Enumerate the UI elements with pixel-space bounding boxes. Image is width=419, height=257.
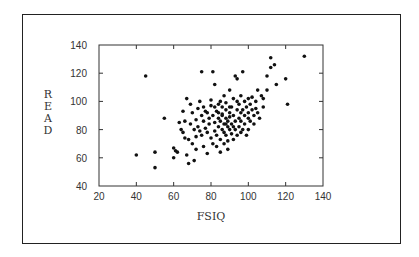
data-point: [254, 100, 258, 104]
data-point: [269, 56, 273, 60]
data-point: [228, 115, 232, 119]
data-point: [261, 97, 265, 101]
data-point: [235, 77, 239, 81]
data-point: [153, 166, 157, 170]
data-point: [230, 132, 234, 136]
data-point: [196, 125, 200, 129]
data-point: [181, 109, 185, 113]
data-point: [228, 88, 232, 92]
data-point: [228, 128, 232, 132]
y-tick-label: 60: [76, 153, 88, 164]
data-point: [243, 122, 247, 126]
data-point: [213, 129, 217, 133]
data-point: [275, 83, 279, 87]
data-point: [228, 111, 232, 115]
data-point: [192, 128, 196, 132]
x-tick-label: 80: [205, 191, 217, 202]
data-point: [183, 119, 187, 123]
data-point: [194, 135, 198, 139]
data-point: [224, 122, 228, 126]
data-point: [233, 119, 237, 123]
x-axis-title: FSIQ: [197, 210, 226, 223]
data-point: [303, 54, 307, 58]
data-point: [211, 142, 215, 146]
data-point: [237, 125, 241, 129]
data-point: [144, 74, 148, 78]
data-point: [239, 131, 243, 135]
data-point: [247, 97, 251, 101]
data-point: [191, 142, 195, 146]
data-point: [198, 129, 202, 133]
data-point: [273, 63, 277, 67]
data-point: [207, 117, 211, 121]
data-point: [200, 114, 204, 118]
data-point: [213, 105, 217, 109]
data-point: [200, 133, 204, 137]
x-tick-label: 100: [240, 191, 257, 202]
data-point: [187, 138, 191, 142]
data-point: [183, 136, 187, 140]
y-tick-label: 140: [70, 40, 87, 51]
data-point: [235, 100, 239, 104]
data-point: [202, 105, 206, 109]
data-point: [219, 150, 223, 154]
data-point: [286, 102, 290, 106]
data-point: [217, 125, 221, 129]
data-point: [205, 111, 209, 115]
data-point: [265, 88, 269, 92]
data-point: [245, 105, 249, 109]
data-point: [235, 133, 239, 137]
data-point: [219, 119, 223, 123]
x-tick-label: 40: [131, 191, 143, 202]
data-point: [252, 122, 256, 126]
data-point: [248, 119, 252, 123]
data-point: [205, 152, 209, 156]
data-point: [239, 94, 243, 98]
data-point: [202, 145, 206, 149]
data-point: [254, 107, 258, 111]
data-point: [191, 111, 195, 115]
data-point: [202, 119, 206, 123]
data-point: [224, 108, 228, 112]
data-point: [243, 100, 247, 104]
data-point: [247, 111, 251, 115]
data-point: [213, 83, 217, 87]
y-tick-label: 120: [70, 68, 87, 79]
data-point: [224, 101, 228, 105]
scatter-chart: 20406080100120140406080100120140 FSIQ RE…: [0, 0, 419, 257]
y-tick-label: 40: [76, 181, 88, 192]
data-point: [189, 122, 193, 126]
data-point: [220, 105, 224, 109]
data-point: [247, 128, 251, 132]
data-point: [217, 111, 221, 115]
svg-text:D: D: [44, 124, 53, 137]
data-point: [241, 108, 245, 112]
data-point: [235, 108, 239, 112]
x-tick-label: 60: [168, 191, 180, 202]
data-point: [256, 88, 260, 92]
data-point: [209, 98, 213, 102]
data-point: [215, 133, 219, 137]
data-point: [163, 117, 167, 121]
data-point: [269, 66, 273, 70]
data-point: [181, 131, 185, 135]
data-point: [232, 97, 236, 101]
data-point: [284, 77, 288, 81]
data-point: [248, 102, 252, 106]
data-point: [205, 131, 209, 135]
data-point: [176, 150, 180, 154]
data-point: [226, 148, 230, 152]
data-point: [209, 136, 213, 140]
data-point: [224, 133, 228, 137]
x-tick-label: 120: [277, 191, 294, 202]
data-point: [172, 156, 176, 160]
data-point: [265, 74, 269, 78]
data-point: [135, 153, 139, 157]
data-point: [239, 119, 243, 123]
data-point: [153, 150, 157, 154]
data-point: [219, 100, 223, 104]
data-point: [232, 138, 236, 142]
data-point: [245, 133, 249, 137]
data-point: [198, 100, 202, 104]
data-point: [209, 104, 213, 108]
